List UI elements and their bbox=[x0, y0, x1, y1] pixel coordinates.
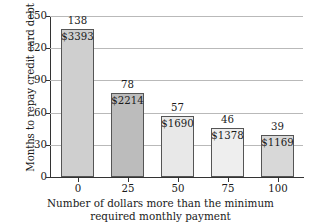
bar-value-months-100: 39 bbox=[257, 121, 298, 132]
bar-value-interest-75: $1378 bbox=[211, 130, 244, 141]
x-axis-line bbox=[50, 177, 304, 178]
bar-value-months-50: 57 bbox=[157, 102, 198, 113]
y-tick-label-60: 60 bbox=[25, 108, 47, 118]
bar-value-interest-25: $2214 bbox=[111, 95, 144, 106]
x-tick-mark-50 bbox=[178, 178, 179, 182]
y-tick-label-0: 0 bbox=[25, 172, 47, 182]
y-tick-label-150: 150 bbox=[25, 11, 47, 21]
x-tick-mark-75 bbox=[228, 178, 229, 182]
bar-value-months-75: 46 bbox=[207, 114, 248, 125]
bar-value-months-0: 138 bbox=[57, 15, 98, 26]
y-tick-label-30: 30 bbox=[25, 140, 47, 150]
bar-value-interest-0: $3393 bbox=[61, 31, 94, 42]
x-tick-mark-0 bbox=[78, 178, 79, 182]
x-tick-label-0: 0 bbox=[58, 183, 98, 194]
x-axis-title-line2: required monthly payment bbox=[18, 210, 303, 223]
x-tick-label-25: 25 bbox=[108, 183, 148, 194]
plot-area: 138 $3393 78 $2214 57 $1690 46 $1378 39 … bbox=[50, 16, 303, 177]
x-tick-mark-25 bbox=[128, 178, 129, 182]
y-tick-label-120: 120 bbox=[25, 43, 47, 53]
x-tick-mark-100 bbox=[278, 178, 279, 182]
x-tick-label-100: 100 bbox=[258, 183, 298, 194]
y-tick-label-90: 90 bbox=[25, 75, 47, 85]
x-tick-label-50: 50 bbox=[158, 183, 198, 194]
bar-value-interest-100: $1169 bbox=[261, 137, 294, 148]
bar-chart-figure: Months to repay credit card debt 150 120… bbox=[0, 0, 315, 224]
bar-value-interest-50: $1690 bbox=[161, 118, 194, 129]
x-axis-title: Number of dollars more than the minimum … bbox=[18, 197, 303, 222]
x-tick-label-75: 75 bbox=[208, 183, 248, 194]
bar-value-months-25: 78 bbox=[107, 79, 148, 90]
y-axis-tick-labels: 150 120 90 60 30 0 bbox=[25, 0, 47, 224]
x-axis-title-line1: Number of dollars more than the minimum bbox=[18, 197, 303, 210]
bar-0[interactable] bbox=[61, 29, 94, 177]
